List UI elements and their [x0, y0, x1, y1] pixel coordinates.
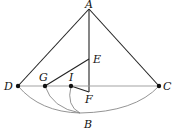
- label-a: A: [84, 0, 93, 11]
- label-c: C: [163, 80, 172, 93]
- segment-a-d: [18, 9, 89, 86]
- label-b: B: [83, 118, 92, 131]
- label-g: G: [39, 71, 48, 84]
- segment-g-e: [45, 59, 89, 86]
- label-d: D: [3, 80, 13, 93]
- geometry-diagram: A B C D E F G I: [0, 0, 172, 133]
- labels: A B C D E F G I: [3, 0, 172, 131]
- point-d: [16, 84, 20, 88]
- arc-d-b: [18, 86, 80, 113]
- segment-i-f: [71, 86, 89, 92]
- arc-i-b: [70, 86, 80, 113]
- label-i: I: [68, 71, 74, 84]
- label-f: F: [84, 93, 93, 106]
- label-e: E: [92, 53, 101, 66]
- segment-a-c: [89, 9, 159, 86]
- point-g: [43, 84, 47, 88]
- point-c: [157, 84, 161, 88]
- point-i: [69, 84, 73, 88]
